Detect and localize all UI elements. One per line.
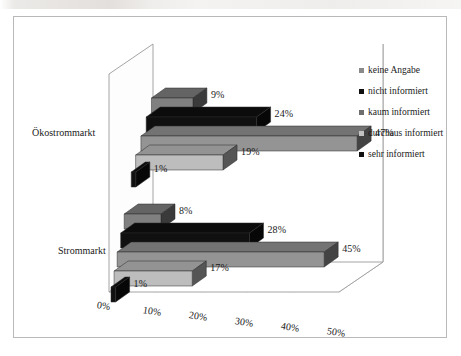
scan-artifact-strip	[0, 0, 461, 9]
legend-label: nicht informiert	[368, 86, 428, 97]
x-tick-label-30pct: 30%	[234, 315, 254, 329]
legend-label: kaum informiert	[368, 107, 430, 118]
legend-item-sehr-informiert[interactable]: sehr informiert	[359, 149, 451, 160]
legend-swatch-icon	[359, 152, 364, 157]
data-label-oekostrommarkt-durchaus-informiert: 19%	[241, 146, 260, 157]
data-label-strommarkt-durchaus-informiert: 17%	[210, 262, 229, 273]
data-label-strommarkt-nicht-informiert: 28%	[267, 224, 286, 235]
legend-swatch-icon	[359, 68, 364, 73]
data-label-strommarkt-kaum-informiert: 45%	[342, 243, 361, 254]
x-tick-label-0pct: 0%	[96, 299, 111, 312]
legend-swatch-icon	[359, 110, 364, 115]
legend-item-nicht-informiert[interactable]: nicht informiert	[359, 86, 451, 97]
data-label-strommarkt-keine-angabe: 8%	[179, 205, 193, 216]
chart-frame: 9%24%47%19%1%8%28%45%17%1% Ökostrommarkt…	[13, 16, 447, 338]
legend-swatch-icon	[359, 131, 364, 136]
legend-item-keine-angabe[interactable]: keine Angabe	[359, 65, 451, 76]
data-label-oekostrommarkt-nicht-informiert: 24%	[275, 108, 294, 119]
data-label-oekostrommarkt-keine-angabe: 9%	[211, 89, 225, 100]
data-label-oekostrommarkt-sehr-informiert: 1%	[154, 163, 168, 174]
chart-legend: keine Angabenicht informiertkaum informi…	[359, 65, 451, 170]
category-label-oekostrommarkt: Ökostrommarkt	[32, 127, 95, 138]
legend-label: durchaus informiert	[368, 128, 443, 139]
data-label-strommarkt-sehr-informiert: 1%	[134, 278, 148, 289]
x-tick-label-40pct: 40%	[280, 320, 300, 334]
legend-item-kaum-informiert[interactable]: kaum informiert	[359, 107, 451, 118]
legend-item-durchaus-informiert[interactable]: durchaus informiert	[359, 128, 451, 139]
legend-label: keine Angabe	[368, 65, 420, 76]
legend-swatch-icon	[359, 89, 364, 94]
category-label-strommarkt: Strommarkt	[58, 245, 106, 256]
bar-oekostrommarkt-durchaus-informiert	[136, 145, 237, 170]
legend-label: sehr informiert	[368, 149, 425, 160]
